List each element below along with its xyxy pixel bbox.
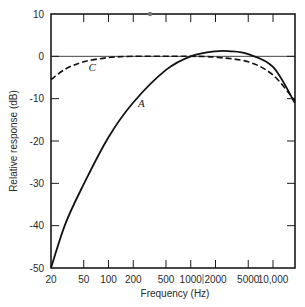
axis-ticks — [51, 14, 295, 268]
y-tick-label: 10 — [33, 9, 45, 20]
curve-a — [51, 51, 295, 268]
x-tick-label: 1000 — [180, 274, 203, 285]
y-tick-label: -20 — [30, 136, 45, 147]
x-tick-label: 5000 — [237, 274, 260, 285]
y-tick-label: -30 — [30, 178, 45, 189]
tick-labels: 205010020050010002000500010,000100-10-20… — [30, 9, 289, 286]
x-tick-label: 50 — [78, 274, 90, 285]
x-tick-label: 2000 — [204, 274, 227, 285]
y-tick-label: -40 — [30, 220, 45, 231]
axis-marker-dot — [148, 12, 152, 16]
plot-border — [51, 14, 295, 268]
plot-frame — [51, 14, 295, 268]
frequency-response-chart: 205010020050010002000500010,000100-10-20… — [0, 0, 305, 307]
x-tick-label: 20 — [45, 274, 57, 285]
x-axis-label: Frequency (Hz) — [141, 288, 210, 299]
y-tick-label: -10 — [30, 93, 45, 104]
y-tick-label: 0 — [38, 51, 44, 62]
x-tick-label: 10,000 — [258, 274, 289, 285]
curve-label-a: A — [137, 97, 145, 109]
x-tick-label: 100 — [100, 274, 117, 285]
y-axis-label: Relative response (dB) — [8, 90, 19, 192]
y-tick-label: -50 — [30, 263, 45, 274]
curve-label-c: C — [88, 61, 96, 73]
curves — [51, 51, 295, 268]
curve-annotations: AC — [88, 61, 145, 109]
x-tick-label: 200 — [125, 274, 142, 285]
x-tick-label: 500 — [158, 274, 175, 285]
